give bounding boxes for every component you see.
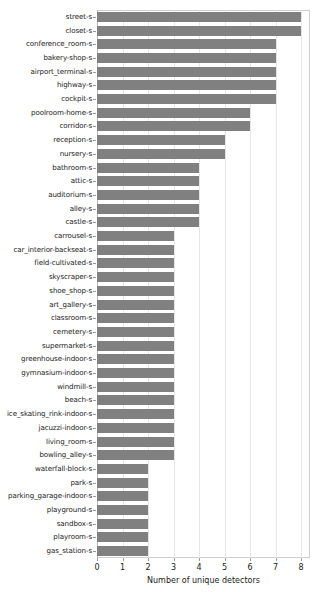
y-axis-tick-label: castle-s <box>0 217 92 227</box>
bar <box>97 354 174 364</box>
bar <box>97 176 199 186</box>
bar <box>97 67 276 77</box>
bar <box>97 121 250 131</box>
bar-row <box>97 478 310 488</box>
bar <box>97 546 148 556</box>
x-axis-tick-mark <box>97 558 98 561</box>
y-axis-tick-label: playground-s <box>0 505 92 515</box>
y-axis-tick-label: reception-s <box>0 135 92 145</box>
y-axis-tick-label: field-cultivated-s <box>0 258 92 268</box>
y-axis-tick-mark <box>93 113 96 114</box>
bar <box>97 286 174 296</box>
bar-row <box>97 327 310 337</box>
y-axis-tick-label: jacuzzi-indoor-s <box>0 423 92 433</box>
x-axis-tick-mark <box>199 558 200 561</box>
y-axis-tick-mark <box>93 359 96 360</box>
y-axis-tick-label: beach-s <box>0 395 92 405</box>
x-axis-tick-label: 1 <box>113 563 133 572</box>
bar-row <box>97 53 310 63</box>
y-axis-tick-label: sandbox-s <box>0 519 92 529</box>
bar-row <box>97 67 310 77</box>
y-axis-tick-label: living_room-s <box>0 437 92 447</box>
bar <box>97 26 301 36</box>
y-axis-tick-label: classroom-s <box>0 313 92 323</box>
bar <box>97 53 276 63</box>
bar <box>97 519 148 529</box>
bar-row <box>97 176 310 186</box>
bar <box>97 532 148 542</box>
y-axis-tick-label: attic-s <box>0 176 92 186</box>
bar-row <box>97 505 310 515</box>
bar-row <box>97 341 310 351</box>
y-axis-tick-label: street-s <box>0 12 92 22</box>
bar-row <box>97 313 310 323</box>
bar-row <box>97 217 310 227</box>
bar <box>97 491 148 501</box>
bar <box>97 258 174 268</box>
y-axis-tick-label: bathroom-s <box>0 163 92 173</box>
y-axis-tick-label: cemetery-s <box>0 327 92 337</box>
y-axis-tick-label: airport_terminal-s <box>0 67 92 77</box>
bar <box>97 437 174 447</box>
bar-row <box>97 94 310 104</box>
bar <box>97 80 276 90</box>
bars-layer <box>97 10 310 558</box>
y-axis-tick-mark <box>93 17 96 18</box>
bar-row <box>97 26 310 36</box>
bar <box>97 135 225 145</box>
y-axis-tick-mark <box>93 551 96 552</box>
x-axis-tick-mark <box>225 558 226 561</box>
y-axis-tick-label: carrousel-s <box>0 231 92 241</box>
y-axis-tick-mark <box>93 222 96 223</box>
y-axis-tick-label: auditorium-s <box>0 190 92 200</box>
bar-row <box>97 245 310 255</box>
y-axis-tick-label: bakery-shop-s <box>0 53 92 63</box>
bar-row <box>97 491 310 501</box>
y-axis-tick-mark <box>93 496 96 497</box>
bar-row <box>97 464 310 474</box>
bar-row <box>97 286 310 296</box>
y-axis-tick-mark <box>93 250 96 251</box>
bar <box>97 327 174 337</box>
y-axis-tick-label: supermarket-s <box>0 341 92 351</box>
y-axis-tick-mark <box>93 85 96 86</box>
bar-row <box>97 12 310 22</box>
bar-row <box>97 409 310 419</box>
y-axis-tick-mark <box>93 524 96 525</box>
y-axis-tick-label: playroom-s <box>0 532 92 542</box>
y-axis-tick-mark <box>93 99 96 100</box>
bar <box>97 395 174 405</box>
y-axis-tick-mark <box>93 291 96 292</box>
bar-row <box>97 546 310 556</box>
y-axis-tick-label: parking_garage-indoor-s <box>0 491 92 501</box>
y-axis-tick-mark <box>93 181 96 182</box>
y-axis-tick-mark <box>93 154 96 155</box>
bar-row <box>97 149 310 159</box>
bar <box>97 313 174 323</box>
y-axis-tick-mark <box>93 44 96 45</box>
x-axis-tick-mark <box>174 558 175 561</box>
y-axis-tick-label: poolroom-home-s <box>0 108 92 118</box>
x-axis-tick-label: 0 <box>87 563 107 572</box>
bar <box>97 190 199 200</box>
x-axis-tick-label: 7 <box>266 563 286 572</box>
bar-row <box>97 135 310 145</box>
x-axis-tick-mark <box>301 558 302 561</box>
bar-row <box>97 300 310 310</box>
y-axis-tick-label: cockpit-s <box>0 94 92 104</box>
bar-row <box>97 437 310 447</box>
bar <box>97 163 199 173</box>
x-axis-tick-mark <box>148 558 149 561</box>
y-axis-tick-label: greenhouse-indoor-s <box>0 354 92 364</box>
bar-row <box>97 80 310 90</box>
y-axis-tick-mark <box>93 263 96 264</box>
y-axis-tick-mark <box>93 387 96 388</box>
y-axis-tick-mark <box>93 236 96 237</box>
y-axis-tick-label: gas_station-s <box>0 546 92 556</box>
bar <box>97 382 174 392</box>
y-axis-tick-label: alley-s <box>0 204 92 214</box>
y-axis-tick-mark <box>93 195 96 196</box>
y-axis-tick-mark <box>93 332 96 333</box>
bar-row <box>97 519 310 529</box>
bar <box>97 409 174 419</box>
